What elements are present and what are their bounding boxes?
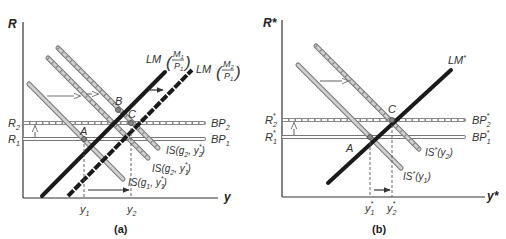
point-c-label: C <box>128 108 136 120</box>
svg-text:M1: M1 <box>173 49 184 60</box>
y-axis-star-label: R* <box>263 16 278 30</box>
is-g2-y1-label: IS(g2, y1*) <box>152 161 191 176</box>
svg-text:P1: P1 <box>224 71 233 82</box>
is-g1-y1-label: IS(g1, y1*) <box>128 175 167 190</box>
is-star-y1-label: IS*(y1) <box>403 170 431 184</box>
lm2-label: LM ( M2 P1 ) <box>196 59 241 82</box>
bp1-star-label: BP1* <box>472 129 491 145</box>
y2-tick-label: y2 <box>126 203 137 217</box>
lm1-label: LM ( M1 P1 ) <box>146 49 191 72</box>
bp1-label: BP1 <box>211 133 230 147</box>
lm-star-curve <box>328 70 451 183</box>
y-axis-label: R <box>8 17 17 31</box>
r1-star-label: R1* <box>265 129 277 145</box>
panel-a-caption: (a) <box>114 223 128 235</box>
svg-text:LM: LM <box>146 53 162 65</box>
point-a-label: A <box>79 125 87 137</box>
svg-text:): ) <box>233 63 241 82</box>
bp2-label: BP2 <box>211 117 230 131</box>
r2-star-label: R2* <box>265 112 277 128</box>
is-star-y2-label: IS*(y2) <box>425 146 453 160</box>
r2-label: R2 <box>8 117 20 131</box>
panel-b-caption: (b) <box>372 223 386 235</box>
point-a-star-label: A <box>345 142 353 154</box>
y1-star-tick-label: y1* <box>364 200 375 216</box>
diagram-canvas: R y <box>0 0 506 239</box>
point-c-star-marker <box>390 118 395 123</box>
is-g2-y2-label: IS(g2, y2*) <box>166 143 205 158</box>
y1-tick-label: y1 <box>79 203 90 217</box>
lm-star-label: LM* <box>448 54 466 66</box>
svg-text:LM: LM <box>196 63 212 75</box>
x-axis-label: y <box>223 190 232 204</box>
is-g2-y2-curve <box>58 48 158 148</box>
point-a-marker <box>82 137 87 142</box>
point-c-marker <box>129 121 134 126</box>
point-b-marker <box>116 108 121 113</box>
panel-a: R y <box>8 17 241 235</box>
point-b-label: B <box>115 95 122 107</box>
panel-b: R* y* <box>263 16 500 235</box>
svg-text:): ) <box>183 53 191 72</box>
svg-text:P1: P1 <box>174 61 183 72</box>
point-c-star-label: C <box>388 103 396 115</box>
y2-star-tick-label: y2* <box>386 200 397 216</box>
x-axis-star-label: y* <box>486 189 500 203</box>
bp2-star-label: BP2* <box>472 112 491 128</box>
point-a-star-marker <box>368 135 373 140</box>
r1-label: R1 <box>8 133 20 147</box>
svg-text:M2: M2 <box>223 59 235 70</box>
